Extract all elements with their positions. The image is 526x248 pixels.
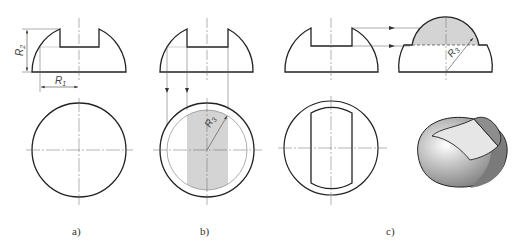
projection-arrow-2 — [185, 88, 189, 93]
caption-a: a) — [72, 225, 81, 237]
projection-arrow-1 — [165, 88, 169, 93]
caption-c: c) — [386, 225, 395, 237]
panel-c: R3 — [278, 17, 507, 205]
panel-b: R3 — [153, 18, 262, 205]
r2-label: R2 — [14, 45, 26, 56]
projection-arrow-bottom-c — [389, 44, 395, 48]
projection-arrow-top-c — [389, 26, 395, 30]
panel-a: R2 R1 — [14, 18, 133, 205]
isometric-3d-model — [418, 117, 508, 188]
r1-label: R1 — [55, 75, 66, 87]
front-view-outline-b — [160, 29, 253, 72]
front-view-outline-c — [285, 28, 378, 72]
r3-label-c: R3 — [445, 44, 461, 60]
cap-shaded-section — [412, 17, 479, 45]
caption-b: b) — [200, 225, 209, 237]
drawing-canvas: R2 R1 R3 — [0, 0, 526, 248]
